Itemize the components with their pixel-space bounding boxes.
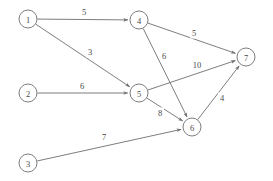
edge-weight-5-6: 8 bbox=[158, 108, 162, 118]
node-6[interactable]: 6 bbox=[183, 118, 201, 136]
node-1[interactable]: 1 bbox=[19, 10, 37, 28]
node-label-1: 1 bbox=[26, 15, 30, 25]
edge-4-to-6 bbox=[143, 29, 187, 117]
node-label-2: 2 bbox=[26, 89, 30, 99]
edge-1-to-5 bbox=[36, 24, 130, 87]
edge-labels-layer: 5367561084 bbox=[78, 7, 226, 143]
edge-3-to-6 bbox=[37, 129, 181, 161]
node-7[interactable]: 7 bbox=[237, 48, 255, 66]
node-label-6: 6 bbox=[190, 123, 194, 133]
edge-weight-2-5: 6 bbox=[80, 81, 84, 91]
edge-weight-4-7: 5 bbox=[192, 28, 196, 38]
edge-weight-5-7: 10 bbox=[193, 60, 202, 70]
node-2[interactable]: 2 bbox=[19, 84, 37, 102]
node-5[interactable]: 5 bbox=[130, 84, 148, 102]
edge-weight-1-4: 5 bbox=[82, 7, 86, 17]
graph-svg: 5367561084 1234567 bbox=[0, 0, 273, 181]
node-label-5: 5 bbox=[137, 89, 141, 99]
node-3[interactable]: 3 bbox=[19, 154, 37, 172]
node-label-7: 7 bbox=[244, 53, 248, 63]
edge-weight-1-5: 3 bbox=[88, 47, 92, 57]
edge-weight-4-6: 6 bbox=[162, 51, 166, 61]
edge-weight-3-6: 7 bbox=[102, 132, 106, 142]
graph-diagram-canvas: 5367561084 1234567 bbox=[0, 0, 273, 181]
node-label-3: 3 bbox=[26, 159, 30, 169]
edge-1-to-4 bbox=[37, 19, 127, 20]
edge-5-to-6 bbox=[147, 98, 183, 121]
node-4[interactable]: 4 bbox=[130, 11, 148, 29]
